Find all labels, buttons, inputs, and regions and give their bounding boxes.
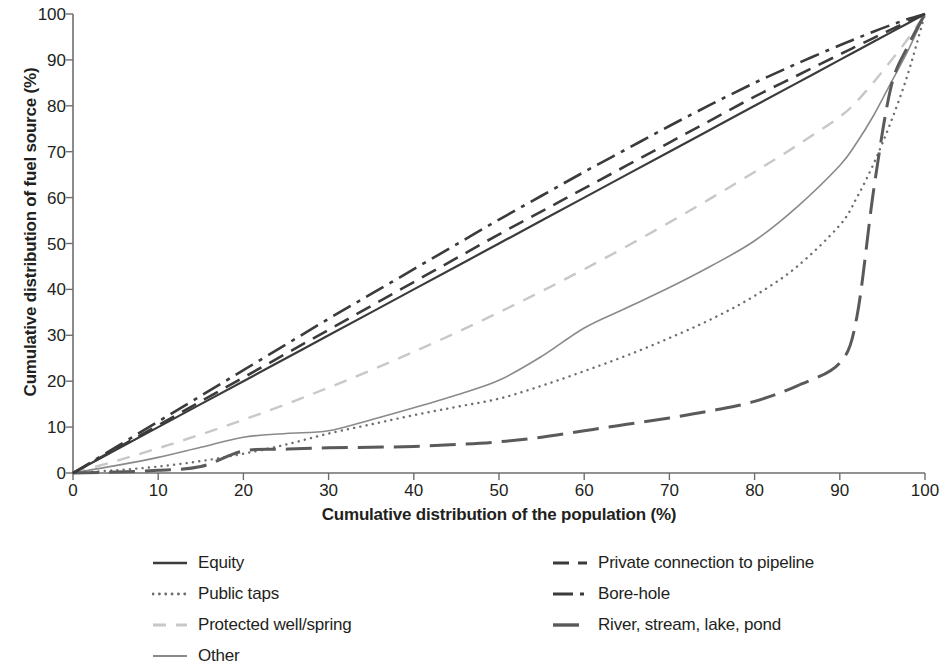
- legend-swatch-icon: [552, 556, 588, 570]
- x-tick-label: 10: [128, 482, 188, 499]
- x-tick-label: 20: [213, 482, 273, 499]
- x-tick-label: 70: [639, 482, 699, 499]
- legend-swatch-icon: [152, 556, 188, 570]
- legend-item[interactable]: Protected well/spring: [152, 612, 352, 638]
- x-tick-label: 40: [384, 482, 444, 499]
- x-axis-tick-labels: 0102030405060708090100: [0, 482, 944, 506]
- legend-label: Private connection to pipeline: [598, 553, 814, 573]
- legend-swatch-icon: [552, 618, 588, 632]
- plot-area: [0, 0, 944, 500]
- legend-label: River, stream, lake, pond: [598, 615, 781, 635]
- legend-label: Protected well/spring: [198, 615, 352, 635]
- x-tick-label: 50: [469, 482, 529, 499]
- series-line-equity: [73, 14, 925, 473]
- x-tick-label: 90: [810, 482, 870, 499]
- x-axis-title: Cumulative distribution of the populatio…: [73, 505, 925, 525]
- x-tick-label: 30: [299, 482, 359, 499]
- legend-label: Bore-hole: [598, 584, 670, 604]
- legend-swatch-icon: [152, 618, 188, 632]
- chart-legend: EquityPublic tapsProtected well/springOt…: [0, 540, 944, 660]
- x-tick-label: 60: [554, 482, 614, 499]
- legend-label: Equity: [198, 553, 244, 573]
- legend-item[interactable]: Equity: [152, 550, 244, 576]
- legend-swatch-icon: [152, 587, 188, 601]
- legend-label: Other: [198, 646, 240, 665]
- legend-item[interactable]: River, stream, lake, pond: [552, 612, 781, 638]
- legend-swatch-icon: [552, 587, 588, 601]
- x-tick-label: 0: [43, 482, 103, 499]
- legend-item[interactable]: Other: [152, 643, 240, 665]
- legend-label: Public taps: [198, 584, 279, 604]
- x-tick-label: 80: [725, 482, 785, 499]
- legend-item[interactable]: Public taps: [152, 581, 279, 607]
- legend-item[interactable]: Private connection to pipeline: [552, 550, 814, 576]
- legend-item[interactable]: Bore-hole: [552, 581, 670, 607]
- legend-swatch-icon: [152, 649, 188, 663]
- x-tick-label: 100: [895, 482, 944, 499]
